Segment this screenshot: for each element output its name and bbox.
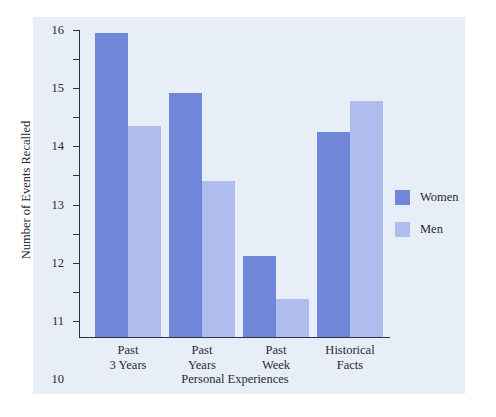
- y-tick-mark: 8: [73, 263, 79, 264]
- bar-women-group-1: [95, 33, 128, 337]
- x-tick-label-line: Historical: [325, 343, 374, 358]
- x-tick-label-line: Facts: [325, 358, 374, 373]
- y-tick-mark: 9: [73, 234, 79, 235]
- y-tick-label: 10: [52, 373, 65, 386]
- x-tick-label-line: 3 Years: [110, 358, 147, 373]
- y-tick-mark: 15: [73, 59, 79, 60]
- x-tick-label-line: Past: [110, 343, 147, 358]
- y-tick-mark: 10: [73, 205, 79, 206]
- x-tick-label-group-3: PastWeek: [262, 343, 290, 374]
- y-tick-mark: 11: [73, 175, 79, 176]
- legend-label-women: Women: [420, 190, 459, 205]
- chart-legend: WomenMen: [395, 190, 459, 254]
- y-tick-label: 13: [52, 198, 65, 211]
- bar-men-group-1: [128, 126, 161, 337]
- x-axis-line: [79, 337, 390, 338]
- legend-label-men: Men: [420, 222, 443, 237]
- y-tick-label: 11: [52, 315, 64, 328]
- bar-women-group-2: [169, 93, 202, 337]
- bar-men-group-3: [276, 299, 309, 337]
- y-tick-mark: 7: [73, 292, 79, 293]
- bar-men-group-2: [202, 181, 235, 337]
- legend-item-women: Women: [395, 190, 459, 205]
- y-tick-mark: 12: [73, 146, 79, 147]
- bar-women-group-3: [243, 256, 276, 337]
- legend-swatch-women: [395, 190, 410, 205]
- y-tick-mark: 6: [73, 321, 79, 322]
- y-tick-label: 15: [52, 82, 65, 95]
- bar-men-group-4: [350, 101, 383, 337]
- y-tick-label: 12: [52, 257, 65, 270]
- x-tick-label-group-2: PastYears: [188, 343, 216, 374]
- x-tick-label-line: Past: [262, 343, 290, 358]
- bar-chart-figure: Number of Events Recalled 67891011121314…: [0, 0, 496, 417]
- x-axis-title: Personal Experiences: [181, 372, 288, 387]
- y-axis-title: Number of Events Recalled: [19, 121, 34, 260]
- legend-swatch-men: [395, 222, 410, 237]
- x-tick-label-group-4: HistoricalFacts: [325, 343, 374, 374]
- plot-area: 678910111213141516 Past3 YearsPastYearsP…: [79, 30, 390, 337]
- y-tick-mark: 14: [73, 88, 79, 89]
- x-tick-label-group-1: Past3 Years: [110, 343, 147, 374]
- legend-item-men: Men: [395, 222, 459, 237]
- x-tick-label-line: Past: [188, 343, 216, 358]
- y-tick-mark: 16: [73, 30, 79, 31]
- bar-women-group-4: [317, 132, 350, 337]
- y-tick-label: 16: [52, 24, 65, 37]
- y-axis-line: [79, 30, 80, 337]
- y-tick-mark: 13: [73, 117, 79, 118]
- y-tick-label: 14: [52, 140, 65, 153]
